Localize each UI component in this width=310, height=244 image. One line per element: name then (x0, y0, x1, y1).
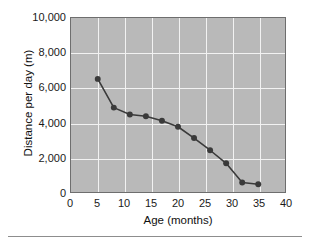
x-axis-tick-label: 35 (244, 198, 274, 209)
data-point-marker (255, 181, 261, 187)
data-point-marker (143, 113, 149, 119)
y-axis-title: Distance per day (m) (22, 13, 34, 193)
data-point-marker (239, 179, 245, 185)
chart-figure: 02,0004,0006,0008,00010,000 051015202530… (0, 0, 310, 244)
x-axis-tick-label: 5 (82, 198, 112, 209)
series-line (98, 79, 259, 184)
data-point-marker (127, 112, 133, 118)
x-axis-tick-label: 30 (217, 198, 247, 209)
data-point-marker (95, 76, 101, 82)
data-point-marker (175, 124, 181, 130)
x-axis-tick-label: 15 (136, 198, 166, 209)
x-axis-tick-label: 20 (163, 198, 193, 209)
x-axis-tick-label: 40 (271, 198, 301, 209)
x-axis-tick-labels: 0510152025303540 (0, 198, 310, 212)
data-point-marker (111, 105, 117, 111)
x-axis-title: Age (months) (70, 214, 286, 226)
plot-area (70, 17, 286, 193)
x-axis-tick-label: 25 (190, 198, 220, 209)
x-axis-tick-label: 0 (55, 198, 85, 209)
data-point-marker (191, 135, 197, 141)
data-point-marker (207, 147, 213, 153)
x-axis-tick-label: 10 (109, 198, 139, 209)
data-point-marker (223, 160, 229, 166)
data-point-marker (159, 118, 165, 124)
bottom-divider (8, 236, 302, 237)
data-series-line (71, 18, 285, 192)
